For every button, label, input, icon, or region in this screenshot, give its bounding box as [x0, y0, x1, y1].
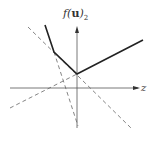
y-axis-label: f(u)2 [63, 7, 88, 22]
x-axis-label: z [141, 82, 146, 93]
y-axis-arrow-icon [75, 26, 79, 33]
solid-polyline [45, 25, 143, 74]
x-axis-arrow-icon [133, 86, 140, 90]
dashed-line-2 [10, 74, 77, 108]
diagram: f(u)2 z [0, 0, 155, 147]
y-label-sub: 2 [84, 14, 88, 22]
dashed-line-1 [28, 27, 131, 128]
